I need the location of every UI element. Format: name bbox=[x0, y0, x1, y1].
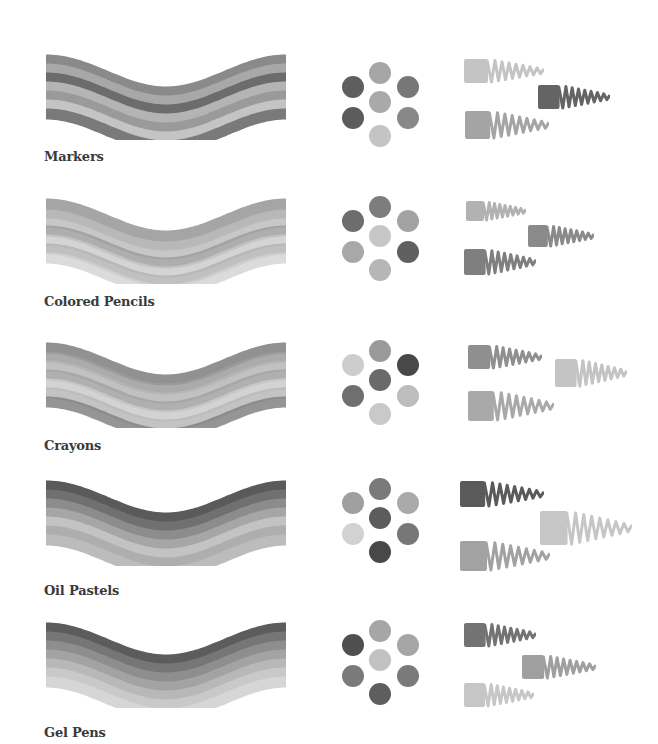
scribble-swatch bbox=[540, 510, 632, 546]
scribble-group bbox=[460, 336, 635, 436]
color-dot bbox=[369, 196, 391, 218]
media-label: Markers bbox=[44, 149, 104, 164]
scribble-swatch bbox=[466, 200, 526, 222]
color-dot bbox=[342, 107, 364, 129]
scribble-swatch bbox=[528, 224, 594, 248]
media-label: Colored Pencils bbox=[44, 294, 155, 309]
media-section-crayons: Crayons bbox=[0, 336, 658, 480]
color-dot bbox=[397, 492, 419, 514]
color-dot bbox=[397, 523, 419, 545]
color-dot bbox=[342, 76, 364, 98]
color-dot bbox=[369, 225, 391, 247]
wave-swatch bbox=[38, 474, 294, 566]
color-dot bbox=[397, 665, 419, 687]
media-section-colored-pencils: Colored Pencils bbox=[0, 192, 658, 336]
wave-swatch bbox=[38, 192, 294, 284]
scribble-swatch bbox=[555, 358, 627, 388]
color-dot bbox=[369, 683, 391, 705]
scribble-swatch bbox=[464, 622, 536, 648]
scribble-swatch bbox=[468, 344, 542, 370]
color-dot bbox=[397, 107, 419, 129]
scribble-group bbox=[460, 192, 635, 292]
color-dot bbox=[342, 354, 364, 376]
color-dot bbox=[369, 649, 391, 671]
color-dot bbox=[397, 385, 419, 407]
color-dot bbox=[369, 340, 391, 362]
color-dot bbox=[397, 76, 419, 98]
scribble-swatch bbox=[465, 110, 549, 140]
color-dot bbox=[369, 403, 391, 425]
scribble-swatch bbox=[460, 540, 550, 572]
wave-swatch bbox=[38, 336, 294, 428]
color-dot bbox=[342, 634, 364, 656]
wave-swatch bbox=[38, 616, 294, 708]
media-label: Gel Pens bbox=[44, 725, 106, 740]
scribble-swatch bbox=[464, 682, 534, 708]
color-dot bbox=[369, 620, 391, 642]
scribble-group bbox=[460, 474, 635, 574]
color-dot bbox=[397, 241, 419, 263]
color-dot bbox=[369, 91, 391, 113]
color-dot bbox=[369, 541, 391, 563]
scribble-swatch bbox=[522, 654, 596, 680]
media-section-gel-pens: Gel Pens bbox=[0, 616, 658, 744]
color-dot bbox=[369, 125, 391, 147]
color-dot bbox=[342, 492, 364, 514]
color-dot bbox=[369, 478, 391, 500]
color-dot bbox=[342, 385, 364, 407]
color-dot-cluster bbox=[338, 62, 428, 152]
color-dot bbox=[369, 507, 391, 529]
color-dot bbox=[369, 62, 391, 84]
color-dot bbox=[342, 523, 364, 545]
wave-swatch bbox=[38, 48, 294, 140]
scribble-swatch bbox=[464, 248, 536, 276]
scribble-swatch bbox=[460, 480, 544, 508]
media-section-oil-pastels: Oil Pastels bbox=[0, 474, 658, 618]
color-dot-cluster bbox=[338, 620, 428, 710]
scribble-swatch bbox=[468, 390, 554, 422]
color-dot bbox=[369, 369, 391, 391]
scribble-group bbox=[460, 616, 635, 716]
scribble-group bbox=[460, 52, 635, 152]
color-dot-cluster bbox=[338, 196, 428, 286]
scribble-swatch bbox=[464, 58, 544, 84]
color-dot bbox=[397, 354, 419, 376]
color-dot bbox=[342, 241, 364, 263]
scribble-swatch bbox=[538, 84, 610, 110]
color-dot-cluster bbox=[338, 340, 428, 430]
color-dot bbox=[342, 665, 364, 687]
media-label: Oil Pastels bbox=[44, 583, 119, 598]
color-dot bbox=[369, 259, 391, 281]
color-dot bbox=[342, 210, 364, 232]
media-section-markers: Markers bbox=[0, 48, 658, 192]
color-dot bbox=[397, 210, 419, 232]
color-dot bbox=[397, 634, 419, 656]
color-dot-cluster bbox=[338, 478, 428, 568]
media-label: Crayons bbox=[44, 438, 101, 453]
